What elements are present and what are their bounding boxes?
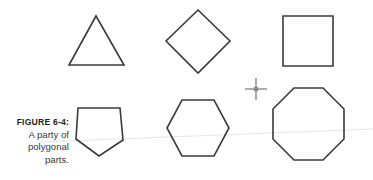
polygon-illustration (0, 0, 373, 180)
shape-hexagon (167, 100, 229, 156)
shape-pentagon (76, 108, 123, 156)
faint-guide-line (40, 129, 373, 142)
shape-octagon (273, 88, 344, 160)
crosshair-center-dot (254, 87, 258, 91)
figure-container: FIGURE 6-4: A party of polygonal parts. (0, 0, 373, 180)
crosshair-cursor-icon[interactable] (245, 78, 267, 100)
shape-triangle (69, 16, 124, 65)
shape-square (283, 16, 333, 66)
shape-diamond (166, 10, 230, 73)
